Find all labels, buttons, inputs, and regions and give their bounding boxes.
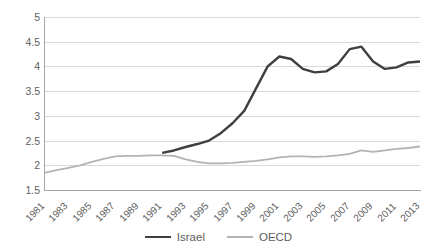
legend-item-oecd[interactable]: OECD [227, 231, 292, 243]
x-axis-tick-labels: 1981198319851987198919911993199519971999… [45, 191, 420, 231]
y-tick-label: 4 [0, 61, 40, 71]
y-tick-label: 1.5 [0, 185, 40, 195]
y-tick-label: 3 [0, 111, 40, 121]
x-tick-label: 1985 [70, 200, 94, 224]
x-tick-label: 1983 [47, 200, 71, 224]
series-line-oecd [45, 147, 420, 173]
legend-swatch-icon [227, 236, 253, 239]
y-tick-label: 3.5 [0, 86, 40, 96]
x-tick-label: 1997 [211, 200, 235, 224]
legend-label: Israel [177, 231, 205, 243]
legend-label: OECD [259, 231, 292, 243]
y-tick-label: 4.5 [0, 37, 40, 47]
x-tick-label: 1989 [117, 200, 141, 224]
y-axis-tick-labels: 1.522.533.544.55 [0, 17, 40, 190]
y-tick-label: 5 [0, 12, 40, 22]
plot-area [45, 17, 420, 190]
line-chart: 1.522.533.544.55 19811983198519871989199… [0, 0, 437, 251]
x-tick-label: 2009 [351, 200, 375, 224]
legend-item-israel[interactable]: Israel [145, 231, 205, 243]
legend-swatch-icon [145, 236, 171, 239]
x-tick-label: 1987 [93, 200, 117, 224]
series-layer [45, 17, 420, 190]
x-tick-label: 1999 [234, 200, 258, 224]
x-tick-label: 1981 [23, 200, 47, 224]
y-tick-label: 2 [0, 160, 40, 170]
x-tick-label: 2013 [398, 200, 422, 224]
x-tick-label: 2011 [375, 201, 398, 224]
x-tick-label: 1995 [187, 200, 211, 224]
x-tick-label: 2005 [304, 200, 328, 224]
chart-legend: IsraelOECD [0, 231, 437, 243]
x-tick-label: 1991 [140, 200, 164, 224]
x-tick-label: 2001 [257, 200, 281, 224]
x-tick-label: 1993 [164, 200, 188, 224]
y-tick-label: 2.5 [0, 136, 40, 146]
x-tick-label: 2003 [281, 200, 305, 224]
y-axis-line [44, 17, 45, 191]
series-line-israel [162, 47, 420, 153]
x-tick-label: 2007 [328, 200, 352, 224]
